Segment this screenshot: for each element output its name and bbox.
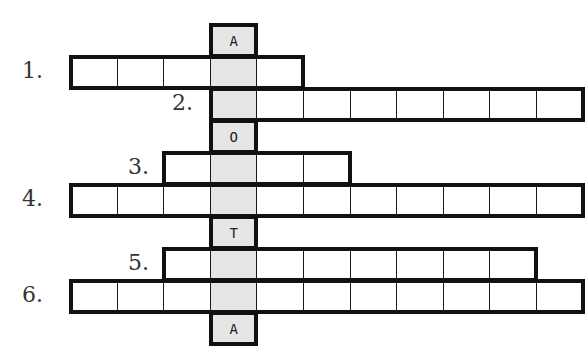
given-letter-cell: O	[210, 120, 258, 153]
given-letter-cell: T	[210, 216, 258, 249]
clue-number-2: 2.	[172, 92, 193, 114]
answer-cell[interactable]	[163, 248, 211, 281]
answer-cell[interactable]	[70, 56, 118, 89]
answer-cell[interactable]	[256, 184, 304, 217]
answer-cell[interactable]	[396, 248, 444, 281]
answer-cell[interactable]	[210, 152, 258, 185]
answer-cell[interactable]	[210, 88, 258, 121]
clue-number-6: 6.	[22, 284, 43, 306]
answer-cell[interactable]	[256, 56, 304, 89]
answer-cell[interactable]	[70, 280, 118, 313]
answer-cell[interactable]	[303, 184, 351, 217]
answer-cell[interactable]	[350, 184, 398, 217]
answer-cell[interactable]	[210, 280, 258, 313]
given-letter-cell: A	[210, 312, 258, 345]
clue-number-3: 3.	[128, 156, 149, 178]
answer-cell[interactable]	[489, 280, 537, 313]
answer-cell[interactable]	[163, 152, 211, 185]
answer-cell[interactable]	[303, 248, 351, 281]
answer-cell[interactable]	[489, 184, 537, 217]
answer-cell[interactable]	[163, 184, 211, 217]
clue-number-4: 4.	[22, 188, 43, 210]
given-letter-cell: A	[210, 24, 258, 57]
answer-cell[interactable]	[256, 88, 304, 121]
answer-cell[interactable]	[396, 280, 444, 313]
answer-cell[interactable]	[443, 88, 491, 121]
answer-cell[interactable]	[117, 184, 165, 217]
answer-cell[interactable]	[163, 56, 211, 89]
answer-cell[interactable]	[350, 280, 398, 313]
answer-cell[interactable]	[536, 184, 584, 217]
answer-cell[interactable]	[210, 184, 258, 217]
answer-cell[interactable]	[210, 248, 258, 281]
answer-cell[interactable]	[256, 152, 304, 185]
clue-number-1: 1.	[22, 60, 43, 82]
answer-cell[interactable]	[443, 184, 491, 217]
answer-cell[interactable]	[256, 248, 304, 281]
answer-cell[interactable]	[443, 248, 491, 281]
answer-cell[interactable]	[163, 280, 211, 313]
clue-number-5: 5.	[128, 252, 149, 274]
answer-cell[interactable]	[303, 152, 351, 185]
answer-cell[interactable]	[350, 88, 398, 121]
answer-cell[interactable]	[536, 88, 584, 121]
answer-cell[interactable]	[117, 280, 165, 313]
answer-cell[interactable]	[489, 248, 537, 281]
answer-cell[interactable]	[396, 184, 444, 217]
answer-cell[interactable]	[210, 56, 258, 89]
answer-cell[interactable]	[117, 56, 165, 89]
answer-cell[interactable]	[536, 280, 584, 313]
answer-cell[interactable]	[256, 280, 304, 313]
answer-cell[interactable]	[303, 280, 351, 313]
answer-cell[interactable]	[350, 248, 398, 281]
answer-cell[interactable]	[396, 88, 444, 121]
answer-cell[interactable]	[303, 88, 351, 121]
answer-cell[interactable]	[489, 88, 537, 121]
answer-cell[interactable]	[70, 184, 118, 217]
answer-cell[interactable]	[443, 280, 491, 313]
